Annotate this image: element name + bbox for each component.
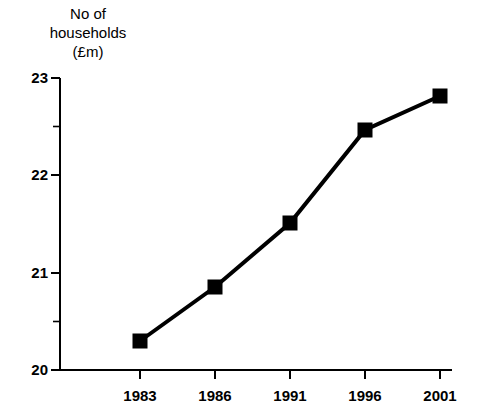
y-axis	[51, 78, 60, 370]
x-axis	[60, 370, 452, 379]
data-point-marker	[133, 334, 148, 349]
data-point-marker	[208, 280, 223, 295]
line-chart: No of households (£m) 23 22 21 20 1983 1…	[0, 0, 481, 416]
data-point-marker	[433, 89, 448, 104]
data-point-marker	[358, 123, 373, 138]
plot-area	[0, 0, 481, 416]
data-point-marker	[283, 216, 298, 231]
